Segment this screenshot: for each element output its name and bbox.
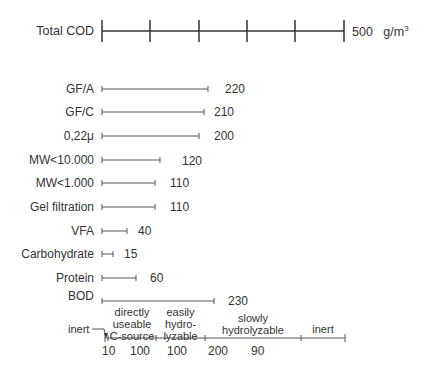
row-label-gel-filtration: Gel filtration — [0, 200, 94, 214]
fraction-directly-line1: directly — [108, 306, 156, 318]
fraction-inert-left: inert — [68, 323, 89, 335]
row-label-bod: BOD — [68, 289, 94, 303]
fraction-easily-line1: easily — [156, 306, 205, 318]
unit: g/m — [383, 25, 404, 39]
fraction-slowly-line1: slowly — [205, 312, 301, 324]
row-label-mw1000: MW<1.000 — [0, 176, 94, 190]
row-value-gfa: 220 — [225, 82, 245, 96]
unit-superscript: 3 — [404, 24, 408, 33]
row-value-022: 200 — [214, 129, 234, 143]
row-value-carbohydrate: 15 — [124, 247, 137, 261]
row-value-protein: 60 — [150, 271, 163, 285]
fraction-inert-right: inert — [301, 323, 345, 335]
fraction-directly-line2: useable — [108, 318, 156, 330]
fraction-easily-line2: hydro- — [156, 318, 205, 330]
fraction-directly-useable: directly useable C-source — [108, 306, 156, 342]
row-label-gfc: GF/C — [0, 105, 94, 119]
fraction-easily-hydrolyzable: easily hydro- lyzable — [156, 306, 205, 342]
fraction-value-directly: 100 — [130, 344, 150, 358]
fraction-directly-line3: C-source — [108, 330, 156, 342]
row-label-022: 0,22μ — [0, 129, 94, 143]
fraction-value-slowly: 200 — [208, 344, 228, 358]
row-label-carbohydrate: Carbohydrate — [0, 247, 94, 261]
fraction-easily-line3: lyzable — [156, 330, 205, 342]
row-value-gel-filtration: 110 — [170, 200, 189, 214]
row-label-mw10000: MW<10.000 — [0, 153, 94, 167]
max-value: 500 — [352, 25, 373, 39]
fraction-value-inert-right: 90 — [251, 344, 264, 358]
row-value-gfc: 210 — [214, 105, 234, 119]
row-value-vfa: 40 — [138, 224, 151, 238]
row-label-protein: Protein — [0, 271, 94, 285]
fraction-slowly-hydrolyzable: slowly hydrolyzable — [205, 312, 301, 336]
fraction-value-inert: 10 — [102, 344, 115, 358]
total-cod-max-value: 500 g/m3 — [352, 24, 409, 39]
row-value-mw1000: 110 — [170, 176, 189, 190]
fraction-value-easily: 100 — [167, 344, 187, 358]
fraction-slowly-line2: hydrolyzable — [205, 324, 301, 336]
total-cod-axis — [102, 20, 344, 42]
row-label-gfa: GF/A — [0, 82, 94, 96]
row-value-bod: 230 — [228, 294, 248, 308]
row-value-mw10000: 120 — [182, 154, 202, 168]
row-label-vfa: VFA — [0, 224, 94, 238]
